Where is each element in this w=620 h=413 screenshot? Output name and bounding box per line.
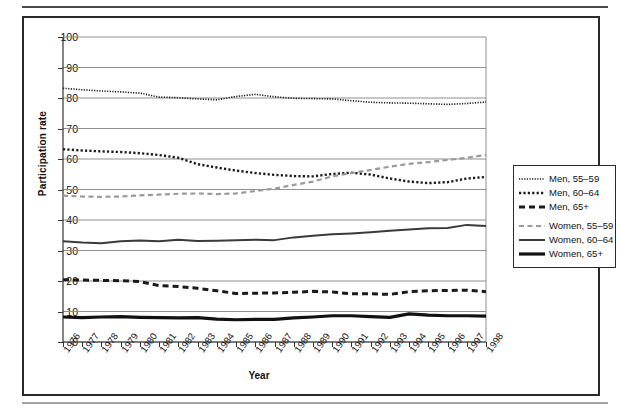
legend-line-swatch xyxy=(519,220,545,231)
x-tick-label: 1980 xyxy=(138,331,159,355)
x-tick-label: 1993 xyxy=(388,331,409,355)
x-tick-label: 1996 xyxy=(446,331,467,355)
legend-item[interactable]: Men, 65+ xyxy=(519,200,610,213)
legend-line-swatch xyxy=(519,234,545,245)
y-tick-mark xyxy=(58,37,63,38)
y-tick-mark xyxy=(58,190,63,191)
x-tick-label: 1991 xyxy=(349,331,370,355)
x-tick-label: 1976 xyxy=(61,331,82,355)
x-tick-label: 1982 xyxy=(176,331,197,355)
figure-container: Participation rate Year 0102030405060708… xyxy=(0,0,620,413)
x-tick-label: 1998 xyxy=(484,331,505,355)
x-tick-label: 1995 xyxy=(426,331,447,355)
x-tick-label: 1994 xyxy=(407,331,428,355)
bottom-divider-rule xyxy=(22,402,608,404)
y-tick-mark xyxy=(58,281,63,282)
legend-line-swatch xyxy=(519,187,545,198)
legend-line-swatch xyxy=(519,201,545,212)
legend-line-swatch xyxy=(519,173,545,184)
x-tick-label: 1986 xyxy=(253,331,274,355)
chart-legend: Men, 55–59Men, 60–64Men, 65+Women, 55–59… xyxy=(513,165,616,268)
legend-item-label: Men, 55–59 xyxy=(549,173,599,184)
y-tick-mark xyxy=(58,68,63,69)
x-tick-label: 1977 xyxy=(80,331,101,355)
legend-item-label: Men, 65+ xyxy=(549,201,589,212)
legend-item-label: Women, 55–59 xyxy=(549,220,613,231)
legend-item[interactable]: Women, 65+ xyxy=(519,247,610,260)
x-tick-label: 1981 xyxy=(157,331,178,355)
plot-area: Participation rate Year 0102030405060708… xyxy=(24,18,602,398)
legend-item-label: Women, 60–64 xyxy=(549,234,613,245)
x-tick-label: 1988 xyxy=(292,331,313,355)
y-tick-mark xyxy=(58,342,63,343)
top-divider-rule xyxy=(22,6,608,8)
y-tick-mark xyxy=(58,251,63,252)
y-tick-mark xyxy=(58,312,63,313)
x-tick-label: 1992 xyxy=(369,331,390,355)
y-tick-mark xyxy=(58,220,63,221)
y-tick-mark xyxy=(58,129,63,130)
legend-item[interactable]: Men, 60–64 xyxy=(519,186,610,199)
x-tick-label: 1979 xyxy=(119,331,140,355)
x-tick-label: 1987 xyxy=(273,331,294,355)
x-tick-label: 1990 xyxy=(330,331,351,355)
figure-frame: Participation rate Year 0102030405060708… xyxy=(22,16,600,396)
y-tick-mark xyxy=(58,98,63,99)
legend-item[interactable]: Women, 55–59 xyxy=(519,219,610,232)
x-tick-label: 1983 xyxy=(196,331,217,355)
legend-line-swatch xyxy=(519,248,545,259)
x-tick-label: 1978 xyxy=(99,331,120,355)
x-tick-label: 1984 xyxy=(215,331,236,355)
legend-item-label: Women, 65+ xyxy=(549,248,603,259)
x-tick-label: 1989 xyxy=(311,331,332,355)
x-tick-label: 1985 xyxy=(234,331,255,355)
legend-item-label: Men, 60–64 xyxy=(549,187,599,198)
y-tick-mark xyxy=(58,159,63,160)
legend-item[interactable]: Women, 60–64 xyxy=(519,233,610,246)
x-tick-label: 1997 xyxy=(465,331,486,355)
legend-item[interactable]: Men, 55–59 xyxy=(519,172,610,185)
